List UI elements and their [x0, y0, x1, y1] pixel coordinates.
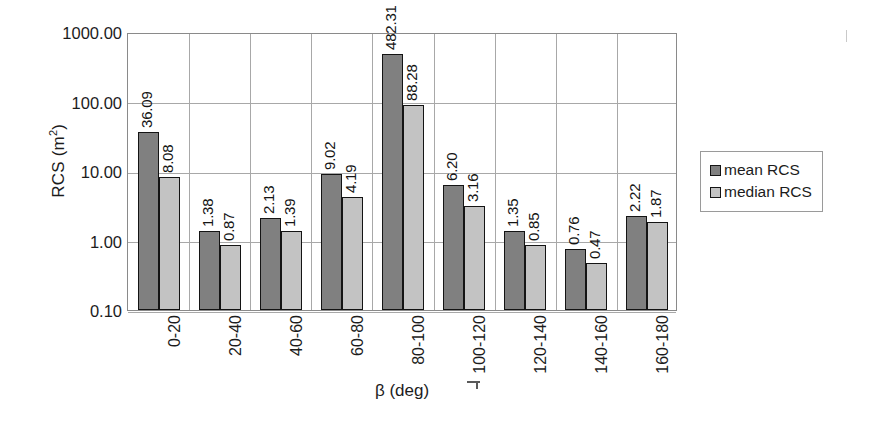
bar-median-rcs[interactable] [342, 197, 363, 310]
x-axis-tick-label: 20-40 [227, 315, 245, 356]
bar-value-label: 4.19 [342, 165, 359, 193]
bar-mean-rcs[interactable] [382, 54, 403, 310]
scan-artifact-tick [476, 383, 478, 389]
bar-group: 482.3188.28 [372, 34, 433, 310]
x-axis-tick-label: 160-180 [654, 315, 672, 374]
bar-value-label: 1.87 [647, 189, 664, 217]
bar-mean-rcs[interactable] [504, 231, 525, 310]
bar-value-label: 6.20 [443, 153, 460, 181]
bar-mean-rcs[interactable] [260, 218, 281, 310]
bar-value-label: 36.09 [138, 92, 155, 129]
bar-median-rcs[interactable] [586, 263, 607, 310]
bar-value-label: 0.87 [220, 212, 237, 240]
y-axis-tick-label: 0.10 [44, 302, 122, 321]
legend-item[interactable]: mean RCS [710, 159, 812, 181]
bar-value-label: 2.22 [626, 184, 643, 212]
bar-value-label: 9.02 [321, 142, 338, 170]
y-axis-tick-label: 1000.00 [44, 24, 122, 43]
x-axis-tick-label: 100-120 [471, 315, 489, 374]
scan-artifact-mark [467, 381, 480, 383]
bar-mean-rcs[interactable] [626, 216, 647, 310]
bar-value-label: 0.47 [586, 231, 603, 259]
bar-value-label: 0.85 [525, 213, 542, 241]
bar-group: 36.098.08 [128, 34, 189, 310]
plot-area: 36.098.081.380.872.131.399.024.19482.318… [127, 33, 677, 311]
bar-mean-rcs[interactable] [565, 249, 586, 310]
legend-swatch-median [710, 187, 721, 198]
x-axis-tick-label: 140-160 [593, 315, 611, 374]
bar-median-rcs[interactable] [220, 245, 241, 310]
bar-mean-rcs[interactable] [199, 231, 220, 310]
bar-median-rcs[interactable] [281, 231, 302, 310]
y-axis-tick-label: 10.00 [44, 163, 122, 182]
rcs-bar-chart: RCS (m2) 1000.00100.0010.001.000.10 36.0… [0, 0, 880, 429]
y-axis-tick-label: 1.00 [44, 232, 122, 251]
bar-value-label: 1.38 [199, 198, 216, 226]
x-axis-tick-label: 0-20 [166, 315, 184, 347]
bar-group: 1.380.87 [189, 34, 250, 310]
bar-value-label: 482.31 [382, 5, 399, 50]
bar-value-label: 1.39 [281, 198, 298, 226]
bar-mean-rcs[interactable] [321, 174, 342, 310]
bar-value-label: 3.16 [464, 173, 481, 201]
legend-swatch-mean [710, 165, 721, 176]
x-axis-title: β (deg) [127, 381, 677, 401]
bar-mean-rcs[interactable] [138, 132, 159, 310]
legend-label: median RCS [724, 183, 812, 201]
bar-group: 2.131.39 [250, 34, 311, 310]
bar-group: 9.024.19 [311, 34, 372, 310]
bar-group: 2.221.87 [617, 34, 678, 310]
chart-legend: mean RCSmedian RCS [700, 151, 823, 212]
bar-group: 1.350.85 [495, 34, 556, 310]
bar-median-rcs[interactable] [403, 105, 424, 310]
bar-value-label: 8.08 [159, 145, 176, 173]
y-axis-tick-labels: 1000.00100.0010.001.000.10 [38, 0, 122, 429]
bar-median-rcs[interactable] [159, 177, 180, 310]
legend-label: mean RCS [724, 161, 800, 179]
bar-median-rcs[interactable] [525, 245, 546, 310]
y-axis-tick-label: 100.00 [44, 93, 122, 112]
x-axis-tick-label: 120-140 [532, 315, 550, 374]
bar-value-label: 88.28 [403, 65, 420, 102]
bar-median-rcs[interactable] [647, 222, 668, 310]
bar-mean-rcs[interactable] [443, 185, 464, 310]
x-axis-tick-label: 60-80 [349, 315, 367, 356]
bar-group: 0.760.47 [556, 34, 617, 310]
scan-artifact-edge [846, 30, 847, 42]
x-axis-tick-label: 40-60 [288, 315, 306, 356]
x-axis-tick-labels: 0-2020-4040-6060-8080-100100-120120-1401… [127, 313, 677, 379]
bar-median-rcs[interactable] [464, 206, 485, 310]
bar-value-label: 1.35 [504, 199, 521, 227]
bar-group: 6.203.16 [434, 34, 495, 310]
x-axis-tick-label: 80-100 [410, 315, 428, 365]
bar-value-label: 0.76 [565, 216, 582, 244]
legend-item[interactable]: median RCS [710, 181, 812, 203]
bar-value-label: 2.13 [260, 185, 277, 213]
